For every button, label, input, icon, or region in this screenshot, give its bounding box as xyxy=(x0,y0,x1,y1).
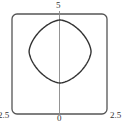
x-max-tick-label: 2.5 xyxy=(110,111,121,120)
plot-area xyxy=(0,0,126,123)
x-min-tick-label: 2.5 xyxy=(0,111,9,120)
y-max-tick-label: 5 xyxy=(56,1,61,10)
closed-curve xyxy=(29,20,91,83)
y-min-tick-label: 0 xyxy=(57,114,62,123)
